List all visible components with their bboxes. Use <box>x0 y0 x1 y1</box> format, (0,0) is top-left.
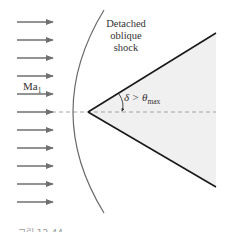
angle-subscript: max <box>147 97 160 106</box>
figure-caption: 그림 12-44 <box>18 226 63 232</box>
angle-text: δ > θ <box>124 91 147 103</box>
shock-label: Detached oblique shock <box>100 18 152 54</box>
mach-number-label: Ma1 <box>23 80 41 95</box>
deflection-angle-label: δ > θmax <box>124 91 160 103</box>
mach-symbol: Ma <box>23 80 38 92</box>
mach-subscript: 1 <box>38 86 42 95</box>
free-stream-arrows <box>17 22 53 202</box>
shock-label-line-2: oblique <box>100 30 152 42</box>
shock-label-line-1: Detached <box>100 18 152 30</box>
shock-label-line-3: shock <box>100 42 152 54</box>
wedge-body <box>88 33 216 187</box>
